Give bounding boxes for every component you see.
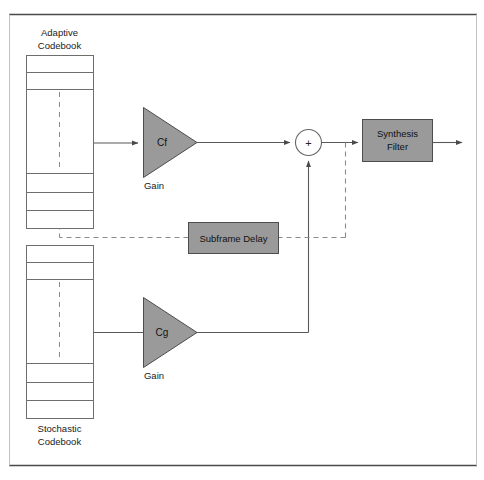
gain-cg-label: Cg — [156, 327, 169, 338]
adaptive-codebook-caption-line2: Codebook — [38, 40, 82, 51]
gain-cf-triangle — [144, 108, 198, 178]
synthesis-filter-label-line1: Synthesis — [377, 128, 418, 139]
stochastic-codebook-caption-line1: Stochastic — [38, 423, 82, 434]
block-diagram: Cf Gain Cg Gain + Synthesis Filter — [0, 0, 484, 480]
gain-cf-caption: Gain — [144, 180, 164, 191]
figure-canvas: Cf Gain Cg Gain + Synthesis Filter — [0, 0, 484, 480]
gain-cg-caption: Gain — [144, 370, 164, 381]
gain-cg-triangle — [144, 298, 198, 368]
adder: + — [296, 130, 322, 156]
stochastic-codebook — [27, 246, 94, 419]
stochastic-codebook-caption-line2: Codebook — [38, 436, 82, 447]
synthesis-filter-label-line2: Filter — [387, 141, 408, 152]
gain-cg-shape — [144, 298, 198, 368]
adaptive-codebook — [27, 56, 94, 229]
subframe-delay-label: Subframe Delay — [199, 233, 267, 244]
adaptive-codebook-caption-line1: Adaptive — [41, 27, 78, 38]
gain-cf-shape — [144, 108, 198, 178]
adder-plus-label: + — [305, 137, 311, 149]
gain-cf-label: Cf — [157, 137, 167, 148]
